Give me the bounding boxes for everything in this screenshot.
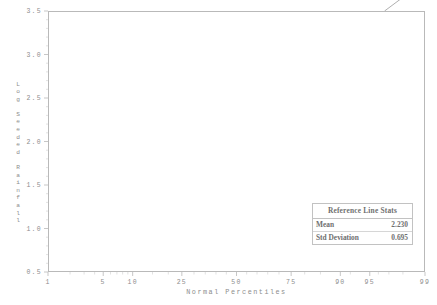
y-axis-title-char: L bbox=[13, 80, 23, 88]
y-axis-title-char bbox=[13, 156, 23, 164]
y-tick-label: 3.0 bbox=[12, 51, 42, 58]
y-tick-label: 0.5 bbox=[12, 269, 42, 276]
x-tick-label: 5 bbox=[101, 279, 106, 286]
y-axis-title-char: S bbox=[13, 111, 23, 119]
normal-probability-plot: 0.51.01.52.02.53.03.5 1510255075909599 L… bbox=[0, 0, 437, 305]
x-tick-label: 90 bbox=[335, 279, 345, 286]
stats-box-title: Reference Line Stats bbox=[313, 204, 412, 219]
stats-row: Std Deviation0.695 bbox=[313, 231, 412, 244]
y-axis-title-char: g bbox=[13, 96, 23, 104]
y-axis-title-char: R bbox=[13, 164, 23, 172]
y-axis-title-char: a bbox=[13, 171, 23, 179]
y-axis-title-char: f bbox=[13, 194, 23, 202]
y-axis-title-char: l bbox=[13, 209, 23, 217]
x-tick-label: 10 bbox=[127, 279, 137, 286]
x-tick-label: 50 bbox=[231, 279, 241, 286]
stats-value: 0.695 bbox=[391, 233, 408, 242]
y-axis-title-char: e bbox=[13, 118, 23, 126]
y-axis-title-char: e bbox=[13, 141, 23, 149]
x-tick-label: 99 bbox=[420, 279, 430, 286]
y-axis-title-char: n bbox=[13, 187, 23, 195]
y-axis-title-char bbox=[13, 103, 23, 111]
stats-row: Mean2.230 bbox=[313, 219, 412, 231]
x-axis-title: Normal Percentiles bbox=[48, 288, 425, 296]
y-axis-title-char: a bbox=[13, 202, 23, 210]
y-tick-label: 1.0 bbox=[12, 225, 42, 232]
stats-label: Mean bbox=[316, 220, 334, 229]
y-axis-title-char: o bbox=[13, 88, 23, 96]
stats-value: 2.230 bbox=[391, 220, 408, 229]
y-axis-title-char: d bbox=[13, 134, 23, 142]
y-axis-title-char: l bbox=[13, 217, 23, 225]
x-tick-label: 95 bbox=[365, 279, 375, 286]
y-tick-label: 3.5 bbox=[12, 8, 42, 15]
x-tick-label: 25 bbox=[177, 279, 187, 286]
stats-box-rows: Mean2.230Std Deviation0.695 bbox=[313, 219, 412, 244]
x-tick-label: 75 bbox=[286, 279, 296, 286]
stats-label: Std Deviation bbox=[316, 233, 359, 242]
y-axis-title-char: i bbox=[13, 179, 23, 187]
y-axis-title: Log Seeded Rainfall bbox=[13, 80, 23, 224]
reference-line-stats-box: Reference Line Stats Mean2.230Std Deviat… bbox=[312, 203, 413, 245]
y-axis-title-char: d bbox=[13, 149, 23, 157]
x-tick-label: 1 bbox=[45, 279, 50, 286]
y-axis-title-char: e bbox=[13, 126, 23, 134]
reference-line bbox=[385, 0, 425, 11]
